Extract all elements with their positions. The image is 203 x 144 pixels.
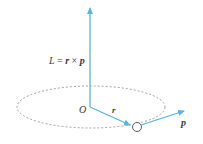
- particle: [133, 123, 142, 132]
- p-label: p: [180, 117, 186, 128]
- r-label: r: [112, 105, 116, 115]
- origin-label: O: [79, 104, 86, 115]
- momentum-vector: [141, 111, 184, 125]
- position-vector: [90, 107, 130, 125]
- equation-label: L = r × p: [48, 55, 85, 66]
- angular-momentum-diagram: L = r × p O r p: [0, 0, 203, 144]
